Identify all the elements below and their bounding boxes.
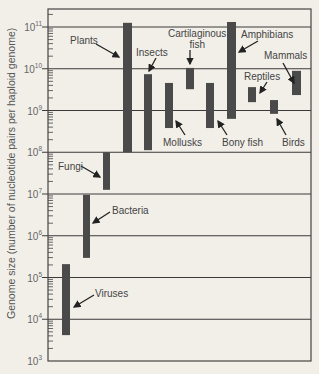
genome-size-chart: Genome size (number of nucleotide pairs … bbox=[0, 0, 319, 374]
bar-reptiles bbox=[248, 87, 256, 102]
y-tick-label: 103 bbox=[12, 354, 42, 367]
label-mammals: Mammals bbox=[264, 50, 307, 61]
label-reptiles: Reptiles bbox=[244, 71, 280, 82]
bar-insects bbox=[144, 74, 152, 150]
bar-amphibians bbox=[227, 22, 236, 119]
label-bony-fish: Bony fish bbox=[222, 137, 263, 148]
label-birds: Birds bbox=[282, 137, 305, 148]
label-fungi: Fungi bbox=[58, 161, 83, 172]
bar-cartilaginous-fish bbox=[186, 68, 194, 89]
plot-frame bbox=[48, 9, 311, 361]
y-tick-label: 105 bbox=[12, 271, 42, 284]
label-plants: Plants bbox=[70, 35, 98, 46]
y-tick-label: 1011 bbox=[12, 20, 42, 33]
bar-birds bbox=[270, 100, 278, 114]
y-tick-label: 107 bbox=[12, 187, 42, 200]
bar-viruses bbox=[62, 264, 70, 335]
label-viruses: Viruses bbox=[95, 288, 128, 299]
bar-plants bbox=[123, 23, 132, 152]
label-amphibians: Amphibians bbox=[241, 29, 293, 40]
y-tick-label: 106 bbox=[12, 229, 42, 242]
label-insects: Insects bbox=[136, 47, 168, 58]
label-bacteria: Bacteria bbox=[112, 205, 149, 216]
label-mollusks: Mollusks bbox=[163, 137, 202, 148]
minor-ticks bbox=[48, 14, 53, 348]
bar-bony-fish bbox=[206, 83, 214, 128]
bar-bacteria bbox=[83, 195, 90, 258]
label-cartilaginous-fish: Cartilaginousfish bbox=[168, 28, 226, 50]
bar-mollusks bbox=[165, 83, 173, 128]
y-tick-label: 1010 bbox=[12, 62, 42, 75]
bar-fungi bbox=[103, 152, 110, 190]
y-tick-label: 108 bbox=[12, 145, 42, 158]
y-tick-label: 104 bbox=[12, 312, 42, 325]
y-tick-label: 109 bbox=[12, 104, 42, 117]
